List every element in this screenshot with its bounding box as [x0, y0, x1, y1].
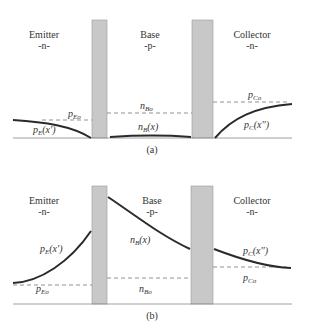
- base-title: Base: [140, 29, 160, 40]
- emitter-type: -n-: [38, 206, 50, 217]
- base-title: Base: [142, 195, 162, 206]
- collector-title: Collector: [233, 29, 271, 40]
- panel-b-caption: (b): [146, 310, 158, 322]
- bjt-minority-carrier-diagram: Emitter -n- Base -p- Collector -n- pEo p…: [0, 0, 312, 329]
- eb-depletion-region: [92, 186, 107, 304]
- base-eq-label: nBo: [139, 283, 152, 296]
- collector-title: Collector: [233, 195, 271, 206]
- eb-depletion-region: [92, 20, 107, 138]
- collector-curve-label: pC(x''): [243, 119, 270, 132]
- base-curve: [110, 136, 191, 138]
- collector-type: -n-: [246, 40, 258, 51]
- base-curve-label: nB(x): [138, 121, 159, 134]
- emitter-eq-label: pEo: [67, 108, 81, 121]
- base-type: -p-: [146, 206, 158, 217]
- base-curve-label: nB(x): [130, 234, 151, 247]
- emitter-title: Emitter: [29, 195, 60, 206]
- emitter-curve: [13, 231, 91, 283]
- collector-curve-label: pC(x''): [242, 245, 269, 258]
- panel-a: Emitter -n- Base -p- Collector -n- pEo p…: [13, 20, 292, 156]
- emitter-title: Emitter: [29, 29, 60, 40]
- collector-eq-label: pCo: [247, 89, 262, 102]
- base-eq-label: nBo: [140, 100, 153, 113]
- collector-type: -n-: [246, 206, 258, 217]
- emitter-curve-label: pE(x'): [39, 243, 63, 256]
- bc-depletion-region: [191, 186, 213, 304]
- base-type: -p-: [144, 40, 156, 51]
- collector-eq-label: pCo: [242, 272, 257, 285]
- panel-a-caption: (a): [146, 144, 157, 156]
- emitter-curve-label: pE(x'): [32, 124, 56, 137]
- emitter-type: -n-: [38, 40, 50, 51]
- panel-b: Emitter -n- Base -p- Collector -n- pEo p…: [13, 186, 292, 322]
- bc-depletion-region: [192, 20, 213, 138]
